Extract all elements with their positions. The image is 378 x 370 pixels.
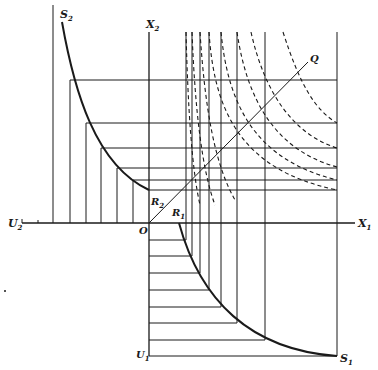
label-s1: S1: [340, 352, 353, 367]
lower-horizontal-lines: [149, 240, 265, 340]
label-r1: R1: [171, 207, 185, 221]
curve-s2: [62, 22, 149, 190]
label-origin: O: [139, 225, 148, 236]
label-s2: S2: [60, 8, 73, 23]
label-u1: U1: [136, 349, 150, 363]
label-u2: U2: [8, 217, 23, 232]
right-vertical-lines: [186, 32, 265, 340]
ray-oq: [149, 62, 308, 223]
upper-left-vertical-lines: [70, 80, 133, 223]
label-x1: X1: [357, 217, 371, 232]
upper-horizontal-lines: [70, 80, 337, 190]
label-q: Q: [310, 53, 319, 64]
label-x2: X2: [145, 18, 160, 33]
stray-dot: [4, 290, 6, 292]
economic-diagram: S2 X2 Q R2 R1 U2 O X1 U1 S1: [0, 0, 378, 370]
label-r2: R2: [150, 196, 164, 210]
